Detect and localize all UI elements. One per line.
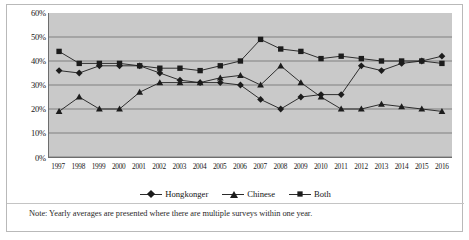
y-axis-tick-label: 60% bbox=[10, 9, 46, 18]
diamond-marker-icon bbox=[338, 91, 345, 98]
note-divider bbox=[7, 203, 464, 204]
triangle-marker-icon bbox=[222, 189, 244, 199]
diamond-marker-icon bbox=[277, 106, 284, 113]
y-axis-tick-label: 20% bbox=[10, 105, 46, 114]
y-axis-tick-label: 10% bbox=[10, 129, 46, 138]
legend-item-label: Hongkonger bbox=[165, 189, 208, 199]
chart-legend: HongkongerChineseBoth bbox=[7, 185, 464, 203]
square-marker-icon bbox=[77, 61, 82, 66]
legend-item-label: Both bbox=[314, 189, 331, 199]
diamond-marker-icon bbox=[297, 94, 304, 101]
diamond-marker-icon bbox=[358, 62, 365, 69]
legend-item-chinese[interactable]: Chinese bbox=[222, 189, 275, 199]
square-marker-icon bbox=[177, 66, 182, 71]
square-marker-icon bbox=[137, 63, 142, 68]
figure-frame: 0%10%20%30%40%50%60% 1997199819992000200… bbox=[6, 4, 463, 232]
y-axis-tick-label: 0% bbox=[10, 154, 46, 163]
square-marker-icon bbox=[278, 46, 283, 51]
figure-note: Note: Yearly averages are presented wher… bbox=[29, 208, 449, 219]
triangle-marker-icon bbox=[76, 94, 83, 100]
square-marker-icon bbox=[218, 63, 223, 68]
series-plot bbox=[49, 13, 452, 157]
square-marker-icon bbox=[298, 49, 303, 54]
legend-item-both[interactable]: Both bbox=[289, 189, 331, 199]
square-marker-icon bbox=[359, 56, 364, 61]
square-marker-icon bbox=[318, 56, 323, 61]
diamond-marker-icon-glyph bbox=[147, 190, 155, 198]
diamond-marker-icon bbox=[140, 189, 162, 199]
square-marker-icon bbox=[197, 68, 202, 73]
square-marker-icon-glyph bbox=[297, 191, 302, 196]
y-axis-tick-label: 40% bbox=[10, 57, 46, 66]
triangle-marker-icon bbox=[237, 72, 244, 78]
diamond-marker-icon bbox=[76, 70, 83, 77]
series-chinese bbox=[56, 62, 446, 114]
square-marker-icon bbox=[258, 37, 263, 42]
triangle-marker-icon-glyph bbox=[230, 191, 238, 198]
plot-area bbox=[48, 13, 452, 158]
square-marker-icon bbox=[439, 61, 444, 66]
square-marker-icon bbox=[399, 58, 404, 63]
x-axis-tick-label: 2016 bbox=[429, 162, 455, 172]
diamond-marker-icon bbox=[56, 67, 63, 74]
diamond-marker-icon bbox=[378, 67, 385, 74]
series-line bbox=[59, 56, 442, 109]
figure-container: 0%10%20%30%40%50%60% 1997199819992000200… bbox=[0, 0, 469, 240]
y-axis: 0%10%20%30%40%50%60% bbox=[7, 13, 46, 158]
triangle-marker-icon bbox=[136, 89, 143, 95]
square-marker-icon bbox=[157, 66, 162, 71]
triangle-marker-icon bbox=[277, 62, 284, 68]
square-marker-icon bbox=[419, 58, 424, 63]
square-marker-icon bbox=[238, 58, 243, 63]
series-both bbox=[56, 37, 444, 74]
square-marker-icon bbox=[56, 49, 61, 54]
y-axis-tick-label: 50% bbox=[10, 33, 46, 42]
square-marker-icon bbox=[289, 189, 311, 199]
chart-region: 0%10%20%30%40%50%60% 1997199819992000200… bbox=[7, 5, 464, 187]
diamond-marker-icon bbox=[237, 82, 244, 89]
x-axis: 1997199819992000200120022003200420052006… bbox=[48, 162, 452, 174]
diamond-marker-icon bbox=[257, 96, 264, 103]
series-hongkonger bbox=[56, 53, 446, 113]
legend-item-hongkonger[interactable]: Hongkonger bbox=[140, 189, 208, 199]
y-axis-tick-label: 30% bbox=[10, 81, 46, 90]
legend-item-label: Chinese bbox=[247, 189, 275, 199]
square-marker-icon bbox=[97, 61, 102, 66]
diamond-marker-icon bbox=[439, 53, 446, 60]
triangle-marker-icon bbox=[378, 101, 385, 107]
square-marker-icon bbox=[379, 58, 384, 63]
square-marker-icon bbox=[338, 54, 343, 59]
series-line bbox=[59, 66, 442, 112]
square-marker-icon bbox=[117, 61, 122, 66]
